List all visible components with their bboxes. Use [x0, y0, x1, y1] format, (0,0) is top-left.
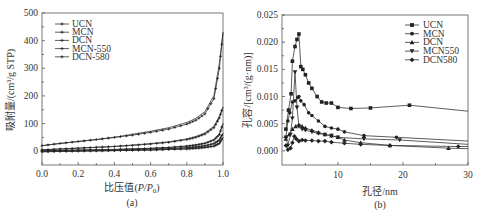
- chart-a-x-axis: 0.00.20.40.60.81.0: [36, 162, 229, 179]
- data-point-marker: [330, 126, 334, 130]
- data-point-marker: [295, 38, 299, 42]
- data-point-marker: [293, 45, 297, 49]
- chart-b-pore-size-distribution: 0.0000.0050.0100.0150.0200.025 102030 UC…: [241, 10, 473, 211]
- data-point-marker: [310, 87, 314, 91]
- data-point-marker: [286, 119, 290, 123]
- chart-b-x-axis-label: 孔径/nm: [362, 185, 398, 197]
- y-tick-label: 0.010: [257, 92, 279, 102]
- data-point-marker: [320, 100, 324, 104]
- data-point-marker: [336, 127, 340, 131]
- data-point-marker: [288, 111, 292, 115]
- data-point-marker: [316, 139, 321, 144]
- data-point-marker: [301, 68, 305, 72]
- data-point-marker: [299, 99, 303, 103]
- y-tick-label: 0.025: [257, 10, 279, 20]
- data-point-marker: [323, 125, 327, 129]
- data-point-marker: [317, 119, 321, 123]
- x-tick-label: 0.2: [72, 169, 84, 179]
- data-point-marker: [330, 101, 334, 105]
- series-line: [286, 97, 468, 142]
- data-point-marker: [303, 138, 308, 143]
- data-point-marker: [310, 138, 315, 143]
- data-point-marker: [408, 103, 412, 107]
- adsorption-branch: [42, 32, 223, 145]
- desorption-branch: [42, 107, 223, 150]
- y-tick-label: 300: [24, 63, 39, 73]
- x-tick-label: 0.0: [36, 169, 48, 179]
- x-tick-label: 0.6: [145, 169, 157, 179]
- data-point-marker: [290, 140, 295, 145]
- data-point-marker: [293, 70, 298, 74]
- chart-a-series: [41, 32, 224, 153]
- data-point-marker: [307, 81, 311, 85]
- series-ucn: [41, 32, 224, 147]
- data-point-marker: [307, 111, 311, 115]
- y-tick-label: 200: [24, 91, 39, 101]
- data-point-marker: [310, 114, 314, 118]
- y-tick-label: 0: [33, 146, 38, 156]
- x-tick-label: 1.0: [217, 169, 229, 179]
- x-tick-label: 30: [463, 170, 473, 180]
- y-tick-label: 0.015: [257, 64, 279, 74]
- chart-a-legend: UCNMCNDCNMCN-550DCN-580: [55, 19, 111, 62]
- chart-a-caption: (a): [126, 197, 137, 209]
- y-tick-label: 0.000: [257, 146, 279, 156]
- data-point-marker: [297, 32, 301, 36]
- legend-item-dcn-580: DCN-580: [55, 52, 110, 62]
- y-tick-label: 0.020: [257, 37, 279, 47]
- y-tick-label: 500: [24, 8, 39, 18]
- data-point-marker: [410, 23, 414, 27]
- x-tick-label: 10: [333, 170, 343, 180]
- x-tick-label: 0.8: [181, 169, 193, 179]
- chart-a-adsorption-isotherm: 0100200300400500 0.00.20.40.60.81.0 UCNM…: [4, 8, 229, 209]
- chart-b-y-axis: 0.0000.0050.0100.0150.0200.025: [257, 10, 285, 156]
- data-point-marker: [291, 59, 295, 63]
- data-point-marker: [410, 32, 414, 36]
- adsorption-branch: [42, 107, 223, 150]
- data-point-marker: [304, 73, 308, 77]
- data-point-marker: [336, 106, 340, 110]
- y-tick-label: 0.005: [257, 119, 279, 129]
- data-point-marker: [349, 107, 353, 111]
- series-mcn: [284, 95, 468, 141]
- data-point-marker: [302, 103, 306, 107]
- data-point-marker: [315, 95, 319, 99]
- chart-b-y-axis-label: 孔容/[cm³/(g·nm)]: [241, 52, 254, 127]
- data-point-marker: [289, 92, 293, 96]
- desorption-branch: [42, 32, 223, 145]
- data-point-marker: [329, 140, 334, 145]
- figure: 0100200300400500 0.00.20.40.60.81.0 UCNM…: [0, 0, 480, 218]
- chart-a-x-axis-label: 比压值(P/P0): [104, 181, 159, 195]
- data-point-marker: [295, 106, 300, 110]
- data-point-marker: [343, 130, 347, 134]
- x-tick-label: 0.4: [108, 169, 120, 179]
- chart-b-caption: (b): [374, 199, 386, 211]
- y-tick-label: 400: [24, 36, 39, 46]
- legend-label: DCN-580: [72, 52, 110, 62]
- data-point-marker: [297, 95, 301, 99]
- y-tick-label: 100: [24, 119, 39, 129]
- data-point-marker: [290, 116, 295, 120]
- data-point-marker: [323, 139, 328, 144]
- legend-label: DCN580: [423, 55, 458, 65]
- chart-b-legend: UCNMCNDCNMCN550DCN580: [405, 20, 459, 65]
- x-tick-label: 20: [398, 170, 408, 180]
- legend-item-dcn580: DCN580: [405, 55, 458, 65]
- data-point-marker: [410, 57, 415, 62]
- data-point-marker: [324, 101, 328, 105]
- data-point-marker: [362, 134, 366, 138]
- data-point-marker: [369, 106, 373, 110]
- chart-a-y-axis-label: 吸附量/(cm³/g STP): [4, 49, 17, 131]
